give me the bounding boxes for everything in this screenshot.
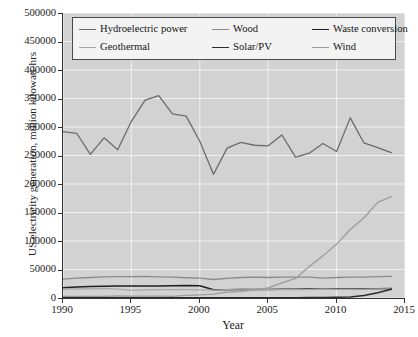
legend-label: Waste conversion (333, 24, 408, 35)
x-tick-label: 1990 (32, 304, 92, 315)
legend-line-icon (212, 47, 229, 48)
legend-entry[interactable]: Waste conversion (312, 24, 408, 35)
legend-line-icon (79, 47, 96, 48)
y-tick-label: 50000 (10, 264, 56, 275)
x-axis-title: Year (62, 318, 404, 333)
legend-entry[interactable]: Hydroelectric power (79, 24, 212, 35)
series-line (63, 197, 391, 297)
y-tick-label: 200000 (10, 179, 56, 190)
x-tick-label: 2015 (374, 304, 418, 315)
y-tick-label: 250000 (10, 150, 56, 161)
legend-entry[interactable]: Geothermal (79, 42, 212, 53)
x-tick-label: 2005 (237, 304, 297, 315)
legend-line-icon (312, 29, 329, 30)
x-tick-label: 1995 (100, 304, 160, 315)
y-tick-label: 150000 (10, 207, 56, 218)
legend-entry[interactable]: Wood (212, 24, 312, 35)
legend-label: Wood (233, 24, 258, 35)
series-line (63, 288, 391, 290)
y-tick-label: 0 (10, 293, 56, 304)
y-tick-label: 400000 (10, 65, 56, 76)
y-tick-label: 100000 (10, 236, 56, 247)
legend-label: Geothermal (100, 42, 150, 53)
legend-entry[interactable]: Wind (312, 42, 408, 53)
y-tick-label: 350000 (10, 93, 56, 104)
legend-entry[interactable]: Solar/PV (212, 42, 312, 53)
x-tick-label: 2000 (169, 304, 229, 315)
legend-label: Hydroelectric power (100, 24, 187, 35)
legend-label: Wind (333, 42, 356, 53)
legend-line-icon (312, 47, 329, 48)
chart-figure: US electricity generation, million kilow… (0, 0, 418, 337)
x-tick-label: 2010 (306, 304, 366, 315)
y-tick-label: 450000 (10, 36, 56, 47)
legend: Hydroelectric powerWoodWaste conversionG… (72, 17, 396, 60)
series-line (63, 276, 391, 279)
y-tick-label: 300000 (10, 122, 56, 133)
legend-line-icon (79, 29, 96, 30)
legend-line-icon (212, 29, 229, 30)
series-line (63, 96, 391, 175)
series-lines (63, 96, 391, 298)
y-tick-label: 500000 (10, 8, 56, 19)
legend-label: Solar/PV (233, 42, 272, 53)
